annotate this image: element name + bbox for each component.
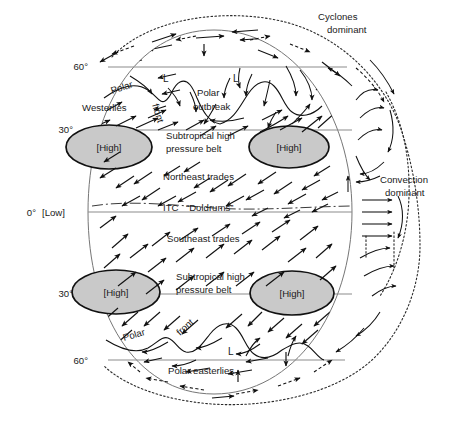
label-subtropical-belt-south-line1: Subtropical high	[176, 271, 245, 282]
diagram-canvas: 60° 30° 0° 30° 60° [Low] [High] [High] […	[0, 0, 449, 424]
label-subtropical-belt-north-line1: Subtropical high	[166, 130, 235, 141]
label-high-ne: [High]	[276, 142, 301, 153]
circulation-figure: 60° 30° 0° 30° 60° [Low] [High] [High] […	[0, 0, 449, 424]
label-polar-outbreak-line1: Polar	[197, 87, 220, 98]
label-cyclones-dominant-line2: dominant	[327, 24, 367, 35]
label-lat-60n: 60°	[73, 61, 88, 72]
label-lat-30n: 30°	[58, 124, 73, 135]
label-subtropical-belt-south-line2: pressure belt	[176, 284, 232, 295]
label-polar-outbreak-line2: outbreak	[193, 101, 231, 112]
label-doldrums: “Doldrums”	[186, 202, 233, 213]
label-northeast-trades: Northeast trades	[163, 171, 234, 182]
label-southeast-trades: Southeast trades	[167, 233, 240, 244]
label-polar-easterlies: Polar easterlies	[168, 365, 234, 376]
label-low-marker-n2: L	[233, 73, 239, 84]
label-equatorial-low: [Low]	[42, 207, 65, 218]
label-low-marker-n1: L	[163, 73, 169, 84]
label-convection-dominant-line1: Convection	[380, 174, 428, 185]
label-itc: ITC	[163, 202, 179, 213]
label-high-nw: [High]	[96, 142, 121, 153]
label-high-sw: [High]	[103, 287, 128, 298]
label-westerlies: Westerlies	[82, 102, 127, 113]
label-lat-equator: 0°	[27, 207, 36, 218]
label-lat-30s: 30°	[58, 288, 73, 299]
label-high-se: [High]	[279, 288, 304, 299]
label-cyclones-dominant-line1: Cyclones	[318, 11, 358, 22]
label-low-marker-s1: L	[228, 346, 234, 357]
label-convection-dominant-line2: dominant	[385, 187, 425, 198]
label-lat-60s: 60°	[73, 355, 88, 366]
label-subtropical-belt-north-line2: pressure belt	[166, 143, 222, 154]
